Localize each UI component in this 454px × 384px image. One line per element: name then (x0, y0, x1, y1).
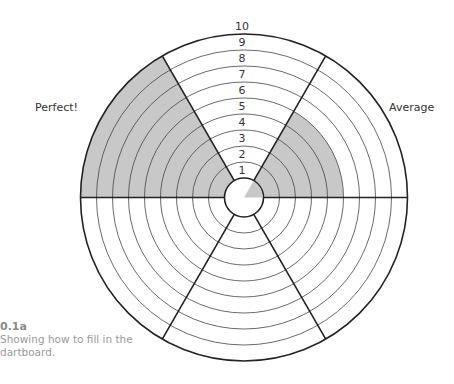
ring-number-1: 1 (239, 164, 246, 177)
segment-label-perfect: Perfect! (35, 101, 78, 114)
segment-fill-average (254, 111, 344, 197)
segment-fills (81, 56, 344, 198)
center-circle-group (225, 178, 264, 217)
ring-number-9: 9 (239, 36, 246, 49)
figure-caption: 0.1a Showing how to fill in the dartboar… (0, 320, 140, 359)
segment-label-average: Average (389, 101, 434, 114)
ring-number-3: 3 (239, 132, 246, 145)
ring-number-4: 4 (239, 116, 246, 129)
ring-number-2: 2 (239, 148, 246, 161)
ring-number-6: 6 (239, 84, 246, 97)
segment-fill-perfect (81, 56, 235, 198)
ring-number-7: 7 (239, 68, 246, 81)
ring-number-8: 8 (239, 52, 246, 65)
figure-description: Showing how to fill in the dartboard. (0, 333, 140, 359)
ring-number-5: 5 (239, 100, 246, 113)
figure-number: 0.1a (0, 320, 140, 333)
ring-number-10: 10 (235, 20, 249, 33)
